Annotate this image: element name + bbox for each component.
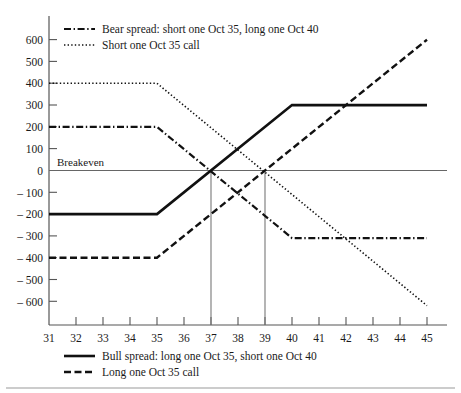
y-tick-labels: 600 500 400 300 200 100 0 – 100 – 200 – … [16,34,43,308]
x-tick-label: 42 [340,332,352,344]
y-tick-label: – 400 [16,252,43,264]
y-tick-label: 300 [26,99,44,111]
y-tick-label: 0 [37,165,43,177]
x-tick-label: 38 [232,332,244,344]
y-tick-label: – 500 [16,274,43,286]
x-tick-label: 37 [205,332,217,344]
x-tick-label: 32 [70,332,82,344]
payoff-diagram: 600 500 400 300 200 100 0 – 100 – 200 – … [0,0,461,393]
y-tick-label: 400 [26,77,44,89]
x-tick-label: 31 [43,332,55,344]
x-tick-label: 45 [421,332,433,344]
legend-label-bull-spread: Bull spread: long one Oct 35, short one … [102,350,317,363]
breakeven-annotation: Breakeven [57,156,105,168]
y-tick-label: 200 [26,121,44,133]
legend-label-bear-spread: Bear spread: short one Oct 35, long one … [102,23,319,36]
series-line-1 [49,105,427,214]
legend-bottom: Bull spread: long one Oct 35, short one … [64,350,317,379]
legend-label-long-call: Long one Oct 35 call [102,366,199,379]
chart-canvas: 600 500 400 300 200 100 0 – 100 – 200 – … [0,0,461,393]
x-tick-label: 34 [124,332,136,344]
legend-label-short-call: Short one Oct 35 call [102,39,200,51]
x-tick-label: 41 [313,332,325,344]
legend-top: Bear spread: short one Oct 35, long one … [64,23,319,51]
series-layer [49,40,427,306]
y-tick-label: – 200 [16,208,43,220]
series-line-4 [49,83,427,305]
y-tick-label: 500 [26,56,44,68]
x-tick-labels: 31 32 33 34 35 36 37 38 39 40 41 42 43 4… [43,332,433,344]
x-tick-label: 43 [367,332,379,344]
x-tick-label: 35 [151,332,163,344]
y-tick-label: – 300 [16,230,43,242]
x-tick-label: 39 [259,332,271,344]
y-tick-label: 100 [26,143,44,155]
series-line-3 [49,127,427,238]
y-tick-label: – 600 [16,296,43,308]
x-tick-label: 44 [394,332,406,344]
y-tick-label: – 100 [16,187,43,199]
x-tick-marks [76,317,427,325]
x-tick-label: 40 [286,332,298,344]
x-tick-label: 36 [178,332,190,344]
x-tick-label: 33 [97,332,109,344]
y-tick-label: 600 [26,34,44,46]
